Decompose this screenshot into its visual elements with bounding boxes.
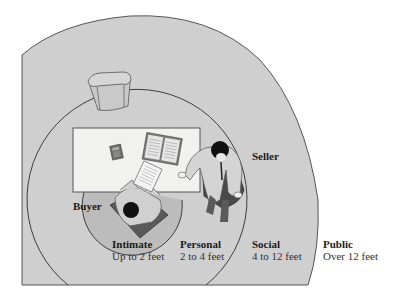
zone-public-range: Over 12 feet: [323, 250, 378, 262]
zone-intimate-name: Intimate: [112, 238, 164, 250]
buyer-label: Buyer: [73, 200, 102, 212]
seller-label: Seller: [252, 150, 279, 162]
zone-public: Public Over 12 feet: [323, 238, 378, 262]
zone-personal: Personal 2 to 4 feet: [180, 238, 224, 262]
zone-intimate-range: Up to 2 feet: [112, 250, 164, 262]
zone-social-range: 4 to 12 feet: [252, 250, 302, 262]
zone-social-name: Social: [252, 238, 302, 250]
zone-intimate: Intimate Up to 2 feet: [112, 238, 164, 262]
zone-personal-name: Personal: [180, 238, 224, 250]
open-binder-icon: [142, 132, 182, 165]
zone-public-name: Public: [323, 238, 378, 250]
zone-social: Social 4 to 12 feet: [252, 238, 302, 262]
zone-personal-range: 2 to 4 feet: [180, 250, 224, 262]
proxemics-diagram: Buyer Seller Intimate Up to 2 feet Perso…: [0, 0, 396, 302]
